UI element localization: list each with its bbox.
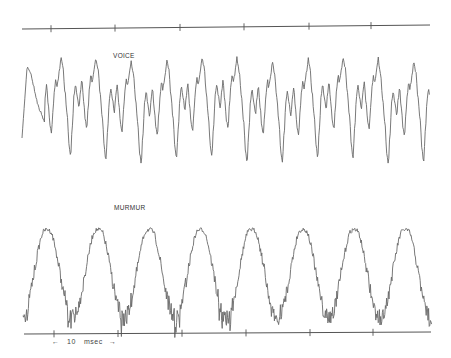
top-time-axis — [22, 22, 430, 32]
murmur-waveform — [23, 228, 432, 338]
voice-label: VOICE — [113, 52, 135, 59]
murmur-label: MURMUR — [114, 204, 145, 211]
top-axis-line — [22, 25, 430, 29]
scale-value: 10 — [67, 338, 76, 345]
voice-waveform — [22, 57, 429, 164]
waveform-figure: VOICE MURMUR ← 10 msec → — [0, 0, 451, 358]
scale-unit: msec — [84, 338, 103, 345]
scale-right-arrow-icon: → — [109, 338, 117, 345]
bottom-axis-line — [24, 332, 431, 334]
time-scale-bar: ← 10 msec → — [52, 338, 117, 345]
bottom-time-axis — [24, 329, 431, 338]
scale-left-arrow-icon: ← — [52, 338, 60, 345]
